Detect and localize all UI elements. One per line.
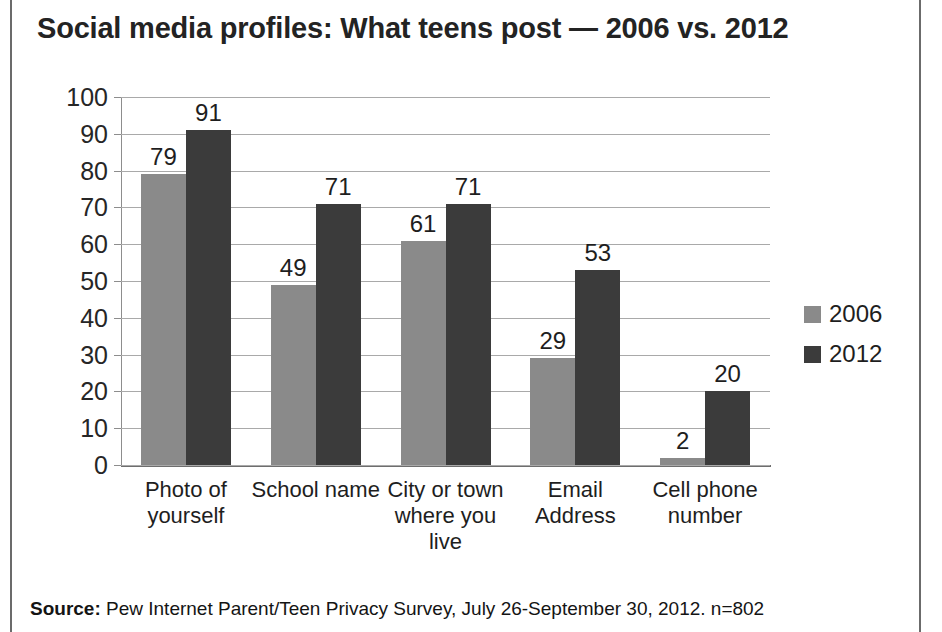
y-axis-label-70: 70 bbox=[80, 193, 108, 222]
bar-value-2006-2: 61 bbox=[410, 210, 437, 238]
y-tick-60 bbox=[114, 244, 121, 245]
y-tick-30 bbox=[114, 355, 121, 356]
y-tick-50 bbox=[114, 281, 121, 282]
plot-area: 1009080706050403020100794961292917171532… bbox=[121, 97, 770, 465]
gridline-0 bbox=[121, 465, 770, 466]
source-text: Pew Internet Parent/Teen Privacy Survey,… bbox=[101, 598, 764, 619]
chart-page: Social media profiles: What teens post —… bbox=[0, 0, 942, 632]
bar-value-2012-2: 71 bbox=[455, 173, 482, 201]
bar-value-2012-1: 71 bbox=[325, 173, 352, 201]
page-title: Social media profiles: What teens post —… bbox=[37, 12, 789, 45]
y-tick-90 bbox=[114, 134, 121, 135]
y-axis-label-20: 20 bbox=[80, 377, 108, 406]
y-axis-label-40: 40 bbox=[80, 303, 108, 332]
bar-2006-0 bbox=[141, 174, 186, 465]
y-axis-label-50: 50 bbox=[80, 267, 108, 296]
x-axis-category-1: School name bbox=[251, 477, 381, 503]
y-tick-70 bbox=[114, 207, 121, 208]
x-axis-category-0: Photo of yourself bbox=[121, 477, 251, 529]
x-axis-category-3: Email Address bbox=[510, 477, 640, 529]
bar-value-2006-3: 29 bbox=[539, 327, 566, 355]
y-tick-0 bbox=[114, 465, 121, 466]
x-axis-category-2: City or town where you live bbox=[381, 477, 511, 555]
bar-2012-0 bbox=[186, 130, 231, 465]
legend-item-2012[interactable]: 2012 bbox=[804, 334, 882, 374]
y-tick-80 bbox=[114, 171, 121, 172]
gridline-100 bbox=[121, 97, 770, 98]
y-axis-label-100: 100 bbox=[66, 83, 108, 112]
legend-item-2006[interactable]: 2006 bbox=[804, 294, 882, 334]
bar-2012-1 bbox=[316, 204, 361, 465]
chart-legend: 20062012 bbox=[804, 294, 882, 374]
y-tick-100 bbox=[114, 97, 121, 98]
bar-2012-3 bbox=[575, 270, 620, 465]
bar-2006-4 bbox=[660, 458, 705, 465]
bar-2006-2 bbox=[401, 241, 446, 465]
bar-2012-4 bbox=[705, 391, 750, 465]
bar-value-2012-4: 20 bbox=[714, 360, 741, 388]
y-tick-10 bbox=[114, 428, 121, 429]
y-axis-label-90: 90 bbox=[80, 119, 108, 148]
y-axis-label-10: 10 bbox=[80, 414, 108, 443]
bar-value-2006-4: 2 bbox=[676, 427, 689, 455]
bar-value-2012-0: 91 bbox=[195, 99, 222, 127]
bar-2012-2 bbox=[446, 204, 491, 465]
y-axis-label-30: 30 bbox=[80, 340, 108, 369]
y-axis-label-0: 0 bbox=[94, 451, 108, 480]
legend-label-2006: 2006 bbox=[829, 300, 882, 328]
y-tick-40 bbox=[114, 318, 121, 319]
legend-label-2012: 2012 bbox=[829, 340, 882, 368]
bar-value-2006-0: 79 bbox=[150, 143, 177, 171]
y-axis-label-80: 80 bbox=[80, 156, 108, 185]
bar-value-2006-1: 49 bbox=[280, 254, 307, 282]
legend-swatch-icon-2012 bbox=[804, 346, 821, 363]
page-right-rule bbox=[919, 0, 921, 632]
source-label: Source: bbox=[30, 598, 101, 619]
y-axis-label-60: 60 bbox=[80, 230, 108, 259]
bar-value-2012-3: 53 bbox=[584, 239, 611, 267]
bar-2006-1 bbox=[271, 285, 316, 465]
y-tick-20 bbox=[114, 391, 121, 392]
page-left-rule bbox=[10, 0, 12, 632]
x-axis-category-4: Cell phone number bbox=[640, 477, 770, 529]
source-note: Source: Pew Internet Parent/Teen Privacy… bbox=[30, 598, 764, 620]
legend-swatch-icon-2006 bbox=[804, 306, 821, 323]
bar-2006-3 bbox=[530, 358, 575, 465]
